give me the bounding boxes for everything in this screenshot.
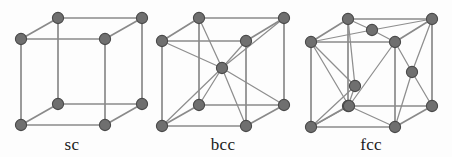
atom-fcc-top-face-center	[366, 24, 377, 35]
cell-diagonal-edge	[222, 68, 246, 126]
cell-diagonal-edge	[162, 41, 222, 68]
atom-bcc-back-top-right	[278, 12, 289, 23]
atom-fcc-back-top-left	[342, 13, 353, 24]
atom-bcc-back-bottom-left	[193, 99, 204, 110]
atom-bcc-front-bottom-left	[156, 120, 167, 131]
atom-bcc-front-bottom-right	[240, 120, 251, 131]
atom-bcc-back-top-left	[193, 12, 204, 23]
cell-label-fcc: fcc	[360, 135, 382, 154]
atom-sc-front-top-right	[99, 33, 110, 44]
atom-sc-back-top-left	[52, 12, 63, 23]
cell-diagonal-edge	[162, 68, 222, 126]
cell-frame-edge	[105, 104, 142, 125]
atom-fcc-front-face-center	[343, 100, 354, 111]
atom-sc-back-bottom-left	[52, 98, 63, 109]
cell-frame-edge	[105, 18, 142, 39]
atom-fcc-left-face-center	[349, 80, 360, 91]
cell-frame-edge	[21, 104, 58, 125]
cell-diagonal-edge	[348, 19, 355, 86]
cell-label-sc: sc	[65, 135, 80, 154]
atom-fcc-right-face-center	[406, 66, 417, 77]
atom-fcc-back-top-right	[426, 13, 437, 24]
cell-frame-edge	[162, 18, 199, 41]
lattice-figure: scbccfcc	[0, 0, 452, 157]
atom-bcc-front-top-left	[156, 35, 167, 46]
unit-cell-fcc: fcc	[305, 13, 437, 154]
atom-fcc-front-bottom-left	[305, 121, 316, 132]
cell-diagonal-edge	[222, 18, 284, 68]
cell-diagonal-edge	[199, 18, 222, 68]
cell-label-bcc: bcc	[211, 135, 236, 154]
lattice-diagram: scbccfcc	[0, 0, 452, 157]
atom-sc-front-bottom-right	[99, 119, 110, 130]
cell-diagonal-edge	[349, 42, 395, 106]
atom-fcc-front-bottom-right	[389, 121, 400, 132]
atom-bcc-back-bottom-right	[278, 99, 289, 110]
cell-diagonal-edge	[222, 68, 284, 105]
atom-bcc-body-center	[216, 62, 227, 73]
atom-sc-back-top-right	[136, 12, 147, 23]
cell-diagonal-edge	[412, 19, 432, 72]
atom-sc-back-bottom-right	[136, 98, 147, 109]
cell-frame-edge	[21, 18, 58, 39]
cell-frame-edge	[246, 18, 284, 41]
cell-frame-edge	[246, 105, 284, 126]
atom-sc-front-top-left	[15, 33, 26, 44]
atom-fcc-back-bottom-right	[426, 100, 437, 111]
unit-cell-bcc: bcc	[156, 12, 289, 154]
atom-fcc-front-top-right	[389, 36, 400, 47]
cell-diagonal-edge	[349, 106, 395, 127]
atom-sc-front-bottom-left	[15, 119, 26, 130]
unit-cell-sc: sc	[15, 12, 147, 154]
atom-bcc-front-top-right	[240, 35, 251, 46]
atom-fcc-front-top-left	[305, 36, 316, 47]
